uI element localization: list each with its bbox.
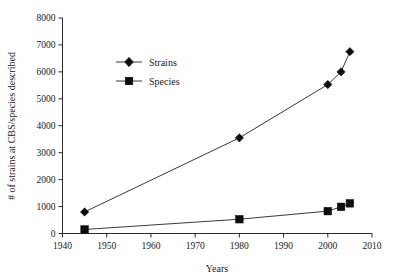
legend-entry-strains[interactable]: Strains [116, 57, 177, 68]
legend-entry-species[interactable]: Species [116, 76, 180, 87]
y-tick-label: 0 [51, 229, 56, 239]
x-tick-label: 2010 [363, 241, 382, 251]
square-marker-icon [337, 203, 345, 211]
chart-figure: 010002000300040005000600070008000 194019… [0, 0, 398, 279]
y-axis-ticks: 010002000300040005000600070008000 [37, 13, 63, 239]
y-tick-label: 5000 [37, 94, 56, 104]
chart-legend: Strains Species [116, 57, 180, 87]
series-line-strains [85, 52, 350, 212]
square-marker-icon [236, 215, 244, 223]
x-tick-label: 1960 [141, 241, 160, 251]
y-tick-label: 6000 [37, 67, 56, 77]
y-tick-label: 8000 [37, 13, 56, 23]
y-tick-label: 2000 [37, 175, 56, 185]
x-tick-label: 1990 [274, 241, 293, 251]
series-line-species [85, 203, 350, 229]
legend-label-species: Species [149, 76, 180, 87]
y-tick-label: 7000 [37, 40, 56, 50]
square-marker-icon [81, 226, 89, 234]
chart-canvas: 010002000300040005000600070008000 194019… [0, 0, 398, 279]
square-marker-icon [125, 77, 133, 85]
x-axis-ticks: 19401950196019701980199020002010 [53, 234, 382, 251]
series-species [81, 200, 354, 234]
square-marker-icon [346, 200, 354, 208]
y-tick-label: 1000 [37, 202, 56, 212]
legend-label-strains: Strains [149, 57, 177, 68]
data-series-layer [80, 47, 354, 233]
x-tick-label: 2000 [318, 241, 337, 251]
x-tick-label: 1940 [53, 241, 72, 251]
y-axis-title: # of strains at CBS/species described [6, 52, 17, 200]
axis-lines [63, 18, 373, 234]
diamond-marker-icon [80, 208, 88, 216]
square-marker-icon [324, 207, 332, 215]
x-tick-label: 1980 [230, 241, 249, 251]
x-tick-label: 1970 [186, 241, 205, 251]
series-strains [80, 47, 354, 216]
y-tick-label: 3000 [37, 148, 56, 158]
diamond-marker-icon [125, 57, 134, 67]
diamond-marker-icon [346, 47, 354, 55]
y-tick-label: 4000 [37, 121, 56, 131]
x-axis-title: Years [206, 263, 228, 274]
x-tick-label: 1950 [97, 241, 116, 251]
diamond-marker-icon [235, 134, 243, 142]
